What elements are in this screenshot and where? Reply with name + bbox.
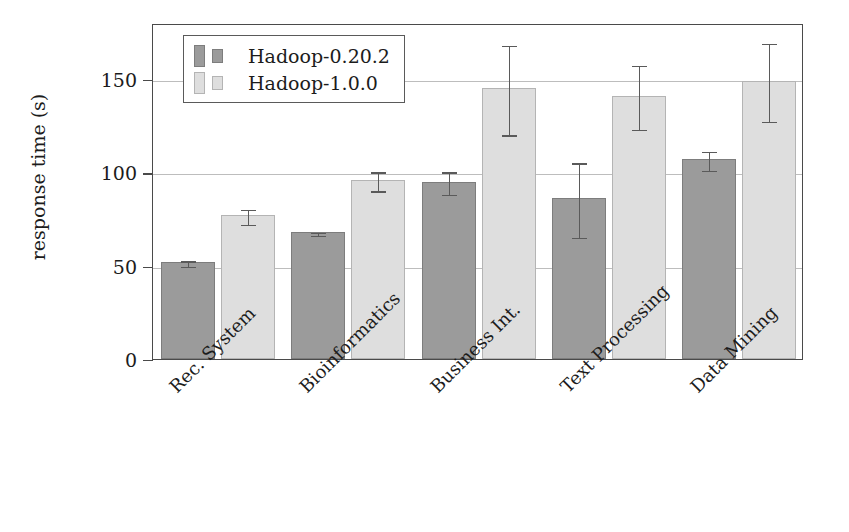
y-axis-tick-label: 0 xyxy=(17,349,137,371)
error-bar-cap xyxy=(442,195,457,196)
error-bar-line xyxy=(509,46,510,136)
y-axis-tick-label: 150 xyxy=(17,69,137,91)
error-bar-line xyxy=(709,152,710,171)
error-bar-cap xyxy=(702,152,717,153)
legend-item-1: Hadoop-1.0.0 xyxy=(194,69,390,96)
legend: Hadoop-0.20.2 Hadoop-1.0.0 xyxy=(183,35,405,103)
legend-swatch-group-light xyxy=(194,72,244,94)
error-bar-line xyxy=(579,163,580,238)
legend-label-1: Hadoop-1.0.0 xyxy=(248,72,378,94)
legend-item-0: Hadoop-0.20.2 xyxy=(194,42,390,69)
chart-figure: response time (s) 050100150 Rec. SystemB… xyxy=(0,0,849,532)
error-bar-cap xyxy=(702,171,717,172)
error-bar-cap xyxy=(502,46,517,47)
y-axis-tick-label: 50 xyxy=(17,256,137,278)
error-bar-cap xyxy=(241,225,256,226)
error-bar-cap xyxy=(762,44,777,45)
legend-label-0: Hadoop-0.20.2 xyxy=(248,45,390,67)
error-bar-cap xyxy=(371,191,386,192)
error-bar-cap xyxy=(502,135,517,136)
error-bar-cap xyxy=(572,163,587,164)
bar xyxy=(682,159,736,359)
error-bar-cap xyxy=(311,236,326,237)
error-bar-line xyxy=(769,44,770,122)
bar xyxy=(422,182,476,359)
legend-swatch-tall-icon xyxy=(194,45,205,67)
error-bar-cap xyxy=(181,261,196,262)
error-bar-line xyxy=(449,172,450,194)
legend-swatch-group-dark xyxy=(194,45,244,67)
error-bar-cap xyxy=(572,238,587,239)
error-bar-cap xyxy=(762,122,777,123)
error-bar-cap xyxy=(632,130,647,131)
error-bar-line xyxy=(378,172,379,191)
error-bar-cap xyxy=(181,267,196,268)
legend-swatch-short-icon xyxy=(212,76,223,90)
error-bar-line xyxy=(248,210,249,225)
error-bar-cap xyxy=(371,172,386,173)
error-bar-cap xyxy=(632,66,647,67)
error-bar-cap xyxy=(442,172,457,173)
error-bar-cap xyxy=(311,233,326,234)
y-axis-tick xyxy=(143,360,153,361)
error-bar-line xyxy=(639,66,640,129)
error-bar-cap xyxy=(241,210,256,211)
y-axis-tick-label: 100 xyxy=(17,162,137,184)
legend-swatch-tall-icon xyxy=(194,72,205,94)
legend-swatch-short-icon xyxy=(212,49,223,63)
